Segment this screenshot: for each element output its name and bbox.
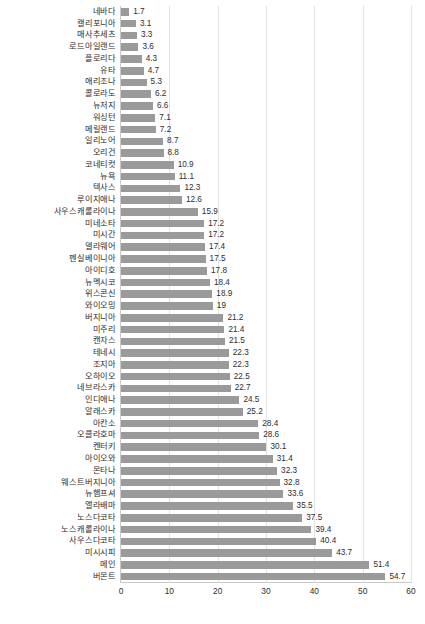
category-label: 아칸소 xyxy=(0,418,116,430)
table-row: 펜실베이니아17.5 xyxy=(0,253,425,265)
category-label: 오하이오 xyxy=(0,371,116,383)
category-label: 미시간 xyxy=(0,229,116,241)
bar-value-label: 37.5 xyxy=(306,512,322,524)
bar-value-label: 7.2 xyxy=(160,124,171,136)
bar-value-label: 33.6 xyxy=(287,488,303,500)
category-label: 네바다 xyxy=(0,6,116,18)
category-label: 미네소타 xyxy=(0,218,116,230)
bar xyxy=(121,573,385,581)
bar-value-label: 54.7 xyxy=(389,571,405,583)
table-row: 아이오와31.4 xyxy=(0,453,425,465)
x-tick-label: 10 xyxy=(165,585,174,597)
category-label: 버몬트 xyxy=(0,571,116,583)
bar-value-label: 17.4 xyxy=(209,241,225,253)
category-label: 앨라배마 xyxy=(0,500,116,512)
x-tick-label: 50 xyxy=(358,585,367,597)
table-row: 미시시피43.7 xyxy=(0,547,425,559)
table-row: 매사추세츠3.3 xyxy=(0,30,425,42)
bar xyxy=(121,373,230,381)
bar xyxy=(121,255,206,263)
table-row: 와이오밍19 xyxy=(0,300,425,312)
category-label: 애리조나 xyxy=(0,76,116,88)
bar xyxy=(121,114,155,122)
bar-value-label: 3.6 xyxy=(142,41,153,53)
category-label: 테네시 xyxy=(0,347,116,359)
category-label: 와이오밍 xyxy=(0,300,116,312)
bar xyxy=(121,55,142,63)
bar-value-label: 7.1 xyxy=(159,112,170,124)
table-row: 일리노어8.7 xyxy=(0,135,425,147)
bar xyxy=(121,102,153,110)
x-tick-label: 20 xyxy=(213,585,222,597)
category-label: 조지아 xyxy=(0,359,116,371)
bar xyxy=(121,314,223,322)
bar-value-label: 21.5 xyxy=(229,335,245,347)
table-row: 캘리포니아3.1 xyxy=(0,18,425,30)
table-row: 네바다1.7 xyxy=(0,6,425,18)
category-label: 뉴저지 xyxy=(0,100,116,112)
bar-value-label: 8.8 xyxy=(168,147,179,159)
bar-value-label: 15.9 xyxy=(202,206,218,218)
category-label: 켄터키 xyxy=(0,441,116,453)
bar xyxy=(121,67,144,75)
bar-value-label: 17.2 xyxy=(208,218,224,230)
bar xyxy=(121,455,273,463)
bar-value-label: 4.7 xyxy=(148,65,159,77)
bar-value-label: 3.1 xyxy=(140,18,151,30)
bar xyxy=(121,279,210,287)
bar xyxy=(121,267,207,275)
category-label: 캔자스 xyxy=(0,335,116,347)
bar-value-label: 4.3 xyxy=(146,53,157,65)
x-tick-label: 60 xyxy=(406,585,415,597)
table-row: 뉴멕시코18.4 xyxy=(0,277,425,289)
category-label: 오리건 xyxy=(0,147,116,159)
bar-value-label: 43.7 xyxy=(336,547,352,559)
table-row: 노스캐롤라이나39.4 xyxy=(0,524,425,536)
table-row: 위스콘신18.9 xyxy=(0,288,425,300)
bar-value-label: 21.4 xyxy=(228,324,244,336)
bar-value-label: 40.4 xyxy=(320,535,336,547)
table-row: 워싱턴7.1 xyxy=(0,112,425,124)
category-label: 펜실베이니아 xyxy=(0,253,116,265)
table-row: 아칸소28.4 xyxy=(0,418,425,430)
bar-value-label: 19 xyxy=(217,300,226,312)
category-label: 미시시피 xyxy=(0,547,116,559)
bar-value-label: 12.3 xyxy=(184,182,200,194)
table-row: 오클라호마28.6 xyxy=(0,430,425,442)
bar-value-label: 22.5 xyxy=(234,371,250,383)
bar-value-label: 24.5 xyxy=(243,394,259,406)
bar xyxy=(121,502,293,510)
table-row: 뉴햄프셔33.6 xyxy=(0,488,425,500)
bar xyxy=(121,126,156,134)
bar-value-label: 39.4 xyxy=(315,524,331,536)
bar xyxy=(121,161,174,169)
table-row: 사우스다코타40.4 xyxy=(0,535,425,547)
category-label: 워싱턴 xyxy=(0,112,116,124)
category-label: 위스콘신 xyxy=(0,288,116,300)
bar xyxy=(121,385,231,393)
table-row: 웨스트버지니아32.8 xyxy=(0,477,425,489)
bar xyxy=(121,290,212,298)
bar xyxy=(121,490,283,498)
table-row: 켄터키30.1 xyxy=(0,441,425,453)
bar-value-label: 18.9 xyxy=(216,288,232,300)
table-row: 버지니아21.2 xyxy=(0,312,425,324)
table-row: 알래스카25.2 xyxy=(0,406,425,418)
category-label: 사우스다코타 xyxy=(0,535,116,547)
category-label: 플로리다 xyxy=(0,53,116,65)
table-row: 오하이오22.5 xyxy=(0,371,425,383)
category-label: 아이디호 xyxy=(0,265,116,277)
bar xyxy=(121,361,229,369)
category-label: 콜로라도 xyxy=(0,88,116,100)
category-label: 미주리 xyxy=(0,324,116,336)
bar xyxy=(121,549,332,557)
table-row: 캔자스21.5 xyxy=(0,335,425,347)
bar xyxy=(121,208,198,216)
table-row: 사우스캐롤라이나15.9 xyxy=(0,206,425,218)
category-label: 알래스카 xyxy=(0,406,116,418)
table-row: 애리조나5.3 xyxy=(0,77,425,89)
bar-value-label: 31.4 xyxy=(277,453,293,465)
bar-value-label: 32.8 xyxy=(284,477,300,489)
bar-value-label: 6.6 xyxy=(157,100,168,112)
bar xyxy=(121,420,258,428)
